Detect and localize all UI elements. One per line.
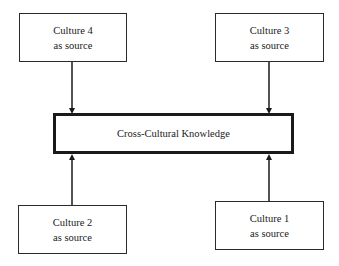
culture-3-label: Culture 3 bbox=[250, 23, 289, 38]
culture-1-sublabel: as source bbox=[250, 226, 289, 241]
culture-3-box: Culture 3 as source bbox=[215, 13, 324, 62]
culture-3-sublabel: as source bbox=[250, 38, 289, 53]
culture-2-sublabel: as source bbox=[53, 230, 92, 245]
culture-1-label: Culture 1 bbox=[250, 211, 289, 226]
culture-2-label: Culture 2 bbox=[53, 215, 92, 230]
culture-4-label: Culture 4 bbox=[53, 23, 92, 38]
cross-cultural-knowledge-box: Cross-Cultural Knowledge bbox=[53, 113, 294, 154]
culture-4-sublabel: as source bbox=[54, 38, 93, 53]
culture-4-box: Culture 4 as source bbox=[19, 13, 127, 62]
center-label: Cross-Cultural Knowledge bbox=[117, 128, 230, 139]
culture-1-box: Culture 1 as source bbox=[215, 201, 324, 250]
culture-2-box: Culture 2 as source bbox=[18, 205, 127, 254]
